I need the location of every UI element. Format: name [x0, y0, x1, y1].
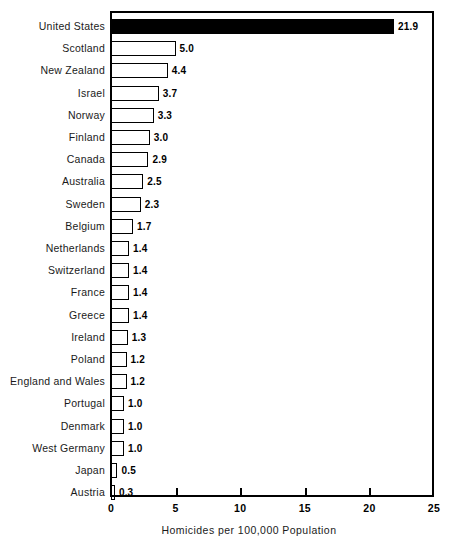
bar-value-label: 3.7 — [163, 86, 178, 101]
bar-value-label: 1.4 — [133, 263, 148, 278]
category-label: Sweden — [0, 199, 105, 210]
x-axis-tick — [240, 488, 242, 495]
x-axis-tick-label: 25 — [428, 502, 440, 514]
bar — [111, 241, 129, 256]
category-label: France — [0, 287, 105, 298]
bar — [111, 330, 128, 345]
bar-value-label: 1.2 — [131, 374, 146, 389]
bar — [111, 308, 129, 323]
bar — [111, 374, 127, 389]
category-label: Australia — [0, 176, 105, 187]
x-axis-title: Homicides per 100,000 Population — [0, 524, 464, 536]
bar-value-label: 0.3 — [119, 485, 134, 500]
bar — [111, 197, 141, 212]
bar-value-label: 2.9 — [152, 152, 167, 167]
bar — [111, 152, 148, 167]
bar — [111, 463, 117, 478]
bar-value-label: 1.4 — [133, 308, 148, 323]
x-axis-tick — [176, 488, 178, 495]
category-label: New Zealand — [0, 65, 105, 76]
category-label: Israel — [0, 88, 105, 99]
bar-value-label: 2.3 — [145, 197, 160, 212]
bar — [111, 485, 115, 500]
category-label: Switzerland — [0, 265, 105, 276]
bar — [111, 108, 154, 123]
category-label: West Germany — [0, 443, 105, 454]
bar — [111, 86, 159, 101]
bars-layer: 21.95.04.43.73.33.02.92.52.31.71.41.41.4… — [111, 12, 434, 496]
bar-value-label: 2.5 — [147, 174, 162, 189]
x-axis-title-text: Homicides per 100,000 Population — [128, 524, 337, 536]
bar — [111, 285, 129, 300]
x-axis-tick — [369, 488, 371, 495]
category-label: Canada — [0, 154, 105, 165]
x-axis-line — [110, 495, 434, 497]
category-label: United States — [0, 21, 105, 32]
bar — [111, 352, 127, 367]
bar-value-label: 1.0 — [128, 419, 143, 434]
category-label: Denmark — [0, 421, 105, 432]
category-label: Poland — [0, 354, 105, 365]
category-label: Norway — [0, 110, 105, 121]
bar — [111, 419, 124, 434]
category-label: England and Wales — [0, 376, 105, 387]
bar-value-label: 1.0 — [128, 396, 143, 411]
category-label: Portugal — [0, 398, 105, 409]
category-label: Finland — [0, 132, 105, 143]
bar-value-label: 0.5 — [121, 463, 136, 478]
bar-value-label: 1.3 — [132, 330, 147, 345]
bar — [111, 396, 124, 411]
bar — [111, 19, 394, 34]
bar-value-label: 3.0 — [154, 130, 169, 145]
category-label: Scotland — [0, 43, 105, 54]
x-axis-tick-label: 0 — [108, 502, 114, 514]
category-label: Greece — [0, 310, 105, 321]
bar-value-label: 1.4 — [133, 285, 148, 300]
category-label: Japan — [0, 465, 105, 476]
bar — [111, 41, 176, 56]
bar — [111, 219, 133, 234]
bar — [111, 441, 124, 456]
bar — [111, 130, 150, 145]
bar-value-label: 3.3 — [158, 108, 173, 123]
homicide-rate-bar-chart: United StatesScotlandNew ZealandIsraelNo… — [0, 0, 464, 553]
category-label: Austria — [0, 487, 105, 498]
x-axis-tick-label: 15 — [299, 502, 311, 514]
x-axis-tick-label: 20 — [363, 502, 375, 514]
category-label: Netherlands — [0, 243, 105, 254]
bar-value-label: 21.9 — [398, 19, 418, 34]
bar — [111, 63, 168, 78]
x-axis-tick-label: 10 — [234, 502, 246, 514]
category-label: Belgium — [0, 221, 105, 232]
bar — [111, 263, 129, 278]
bar-value-label: 1.2 — [131, 352, 146, 367]
bar — [111, 174, 143, 189]
bar-value-label: 1.4 — [133, 241, 148, 256]
x-axis-tick — [305, 488, 307, 495]
bar-value-label: 1.7 — [137, 219, 152, 234]
category-label: Ireland — [0, 332, 105, 343]
bar-value-label: 5.0 — [180, 41, 195, 56]
x-axis-tick-label: 5 — [173, 502, 179, 514]
bar-value-label: 1.0 — [128, 441, 143, 456]
bar-value-label: 4.4 — [172, 63, 187, 78]
